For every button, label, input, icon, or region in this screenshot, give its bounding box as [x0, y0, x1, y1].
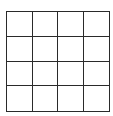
grid-cell: [7, 86, 33, 111]
grid-cell: [84, 86, 110, 111]
grid-cell: [7, 62, 33, 87]
grid-cell: [84, 62, 110, 87]
grid-cell: [33, 37, 59, 62]
grid-cell: [58, 12, 84, 37]
grid-cell: [7, 37, 33, 62]
grid-cell: [84, 37, 110, 62]
grid-cell: [33, 86, 59, 111]
grid-cell: [58, 62, 84, 87]
grid-4x4: [6, 11, 110, 112]
grid-cell: [58, 37, 84, 62]
grid-cell: [33, 62, 59, 87]
grid-cell: [58, 86, 84, 111]
grid-cell: [84, 12, 110, 37]
grid-cell: [33, 12, 59, 37]
grid-cell: [7, 12, 33, 37]
